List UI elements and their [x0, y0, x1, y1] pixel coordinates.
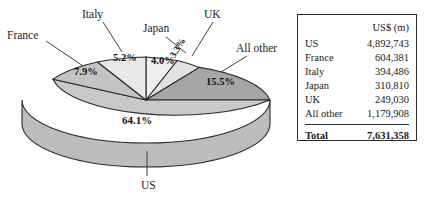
pie-percent-france: 7.9% [74, 66, 98, 77]
row-value-japan: 310,810 [354, 79, 409, 93]
table-row: US 4,892,743 [305, 37, 409, 51]
leader-line-all-other [221, 56, 247, 72]
total-value: 7,631,358 [342, 125, 409, 143]
table-header-label [305, 21, 354, 37]
pie-label-us: US [141, 179, 156, 191]
row-value-all-other: 1,179,908 [354, 107, 409, 121]
data-table-panel: US$ (m) US 4,892,743 France 604,381 Ital… [297, 14, 417, 141]
table-row: Japan 310,810 [305, 79, 409, 93]
leader-line-italy [103, 22, 122, 52]
table-total-row: Total 7,631,358 [305, 125, 409, 143]
table-header-unit: US$ (m) [354, 21, 409, 37]
pie-label-uk: UK [204, 8, 221, 20]
pie-percent-all-other: 15.5% [206, 76, 235, 87]
table-row: UK 249,030 [305, 93, 409, 107]
table-row: Italy 394,486 [305, 65, 409, 79]
pie-chart-area: France Italy Japan UK All other US 7.9% … [0, 0, 292, 199]
leader-line-france [46, 41, 83, 66]
pie-label-france: France [7, 29, 38, 41]
pie-label-japan: Japan [143, 22, 169, 34]
row-value-us: 4,892,743 [354, 37, 409, 51]
leader-line-uk [192, 22, 213, 56]
row-value-france: 604,381 [354, 51, 409, 65]
pie-percent-us: 64.1% [122, 114, 152, 126]
row-label-us: US [305, 37, 354, 51]
table-header-row: US$ (m) [305, 21, 409, 37]
row-label-all-other: All other [305, 107, 354, 121]
row-label-france: France [305, 51, 354, 65]
pie-label-italy: Italy [82, 8, 103, 20]
data-table: US$ (m) US 4,892,743 France 604,381 Ital… [305, 21, 409, 121]
row-value-uk: 249,030 [354, 93, 409, 107]
total-label: Total [305, 125, 342, 143]
table-row: All other 1,179,908 [305, 107, 409, 121]
row-label-italy: Italy [305, 65, 354, 79]
table-row: France 604,381 [305, 51, 409, 65]
row-label-japan: Japan [305, 79, 354, 93]
pie-label-all-other: All other [236, 42, 277, 54]
pie-percent-italy: 5.2% [113, 52, 137, 63]
data-table-total: Total 7,631,358 [305, 125, 409, 143]
row-value-italy: 394,486 [354, 65, 409, 79]
row-label-uk: UK [305, 93, 354, 107]
